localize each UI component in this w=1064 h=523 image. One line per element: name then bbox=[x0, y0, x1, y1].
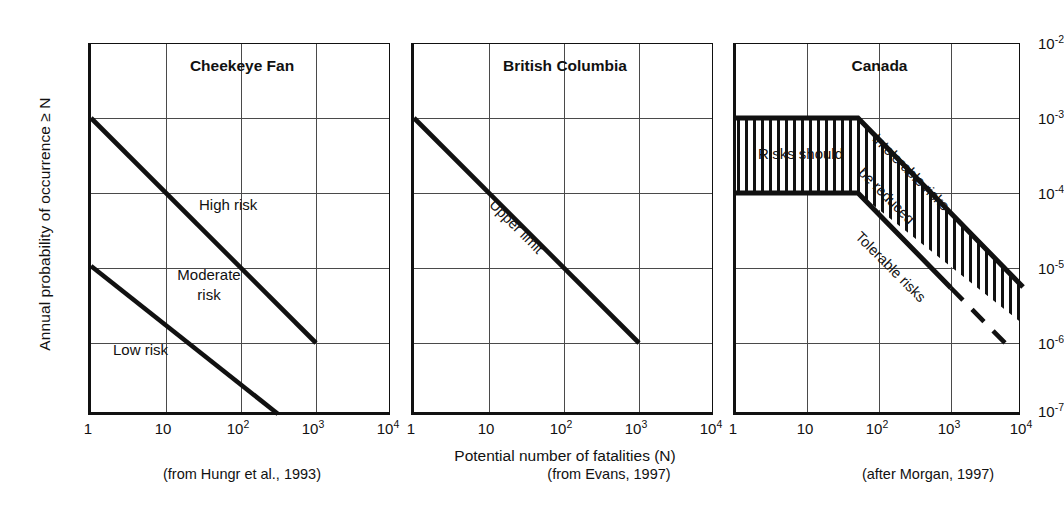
panel-2-x-tick-10: 10 bbox=[478, 421, 495, 436]
panel-1-x-tick-1e2: 102 bbox=[227, 421, 250, 436]
annotation-risks-should: Risks should bbox=[758, 145, 843, 162]
panel-1-title: Cheekeye Fan bbox=[91, 57, 393, 75]
panel-canada: Canada Risks should be reduced Intolerab… bbox=[733, 43, 1020, 415]
panel-3-credit: (after Morgan, 1997) bbox=[862, 466, 994, 482]
panel-3-x-tick-1e4: 104 bbox=[1010, 421, 1033, 436]
panel-1-x-tick-1: 1 bbox=[84, 421, 92, 436]
panel-2-credit: (from Evans, 1997) bbox=[547, 466, 670, 482]
panel-1-x-tick-10: 10 bbox=[155, 421, 172, 436]
panel-1-x-tick-1e4: 104 bbox=[377, 421, 400, 436]
panel-1-x-tick-1e3: 103 bbox=[302, 421, 325, 436]
panel-2-x-tick-1: 1 bbox=[407, 421, 415, 436]
panel-2-x-tick-1e2: 102 bbox=[550, 421, 573, 436]
annotation-low-risk: Low risk bbox=[113, 341, 168, 358]
annotation-moderate-risk: risk bbox=[159, 286, 259, 303]
panel-british-columbia: British Columbia Upper limit bbox=[411, 43, 713, 415]
panel-cheekeye-fan: Cheekeye Fan High risk Moderate risk Low… bbox=[88, 43, 390, 415]
panel-3-x-tick-1e2: 102 bbox=[866, 421, 889, 436]
panel-3-data-lines bbox=[736, 44, 1023, 416]
panel-3-x-tick-1e3: 103 bbox=[938, 421, 961, 436]
panel-1-data-lines bbox=[91, 44, 393, 416]
panel-2-x-tick-1e3: 103 bbox=[625, 421, 648, 436]
annotation-high-risk: High risk bbox=[199, 196, 257, 213]
panel-3-title: Canada bbox=[736, 57, 1023, 75]
annotation-moderate: Moderate bbox=[159, 266, 259, 283]
x-axis-title: Potential number of fatalities (N) bbox=[454, 447, 675, 465]
panel-3-x-tick-10: 10 bbox=[797, 421, 814, 436]
panel-1-credit: (from Hungr et al., 1993) bbox=[163, 466, 321, 482]
panel-2-title: British Columbia bbox=[414, 57, 716, 75]
panel-2-x-tick-1e4: 104 bbox=[700, 421, 723, 436]
y-axis-title: Annual probability of occurrence ≥ N bbox=[36, 29, 54, 419]
panel-3-x-tick-1: 1 bbox=[729, 421, 737, 436]
figure-fn-risk-criteria: Annual probability of occurrence ≥ N 10-… bbox=[0, 0, 1064, 523]
panel-2-data-lines bbox=[414, 44, 716, 416]
